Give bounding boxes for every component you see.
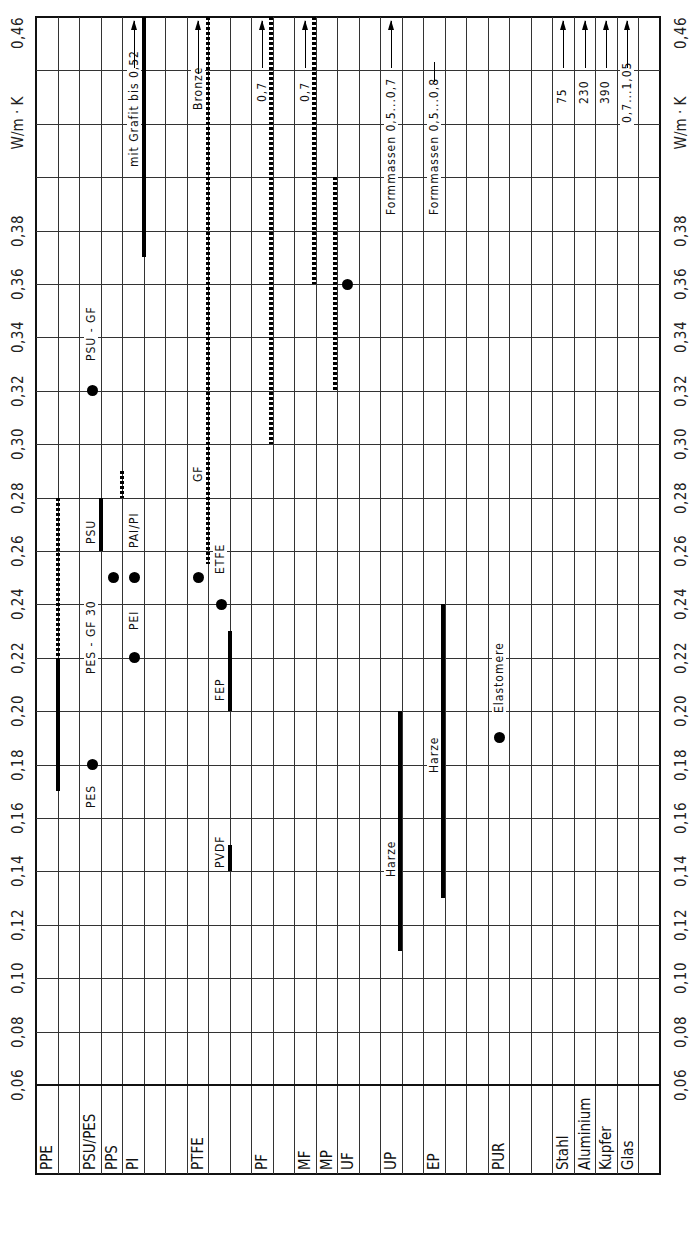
grid-column-line (531, 17, 532, 1174)
y-tick-label-right: 0,24 (672, 584, 690, 624)
y-tick-label-right: 0,12 (672, 905, 690, 945)
material-label: PPS (103, 1145, 121, 1170)
up-formmassen-arrow-icon (391, 21, 392, 68)
y-tick-label-right: 0,20 (672, 691, 690, 731)
y-tick-label-left: 0,14 (9, 851, 27, 891)
grid-column-line (79, 17, 80, 1174)
etfe-label: ETFE (213, 542, 227, 576)
grid-column-line (251, 17, 252, 1174)
fep-range-bar (228, 631, 232, 711)
ptfe-gf-range-bar (206, 17, 210, 564)
grid-column-line (509, 17, 510, 1174)
material-label: MF (296, 1151, 314, 1170)
grid-row-line (36, 391, 660, 392)
material-label: PI (124, 1158, 142, 1170)
grid-column-line (337, 17, 338, 1174)
baseline-0-06 (36, 1084, 660, 1086)
material-label: PSU/PES (81, 1114, 99, 1170)
y-tick-label-left: 0,32 (9, 371, 27, 411)
ptfe-point (193, 572, 204, 583)
grid-row-line (36, 444, 660, 445)
ep-harze-label: Harze (427, 735, 441, 775)
grid-column-line (165, 17, 166, 1174)
mf-0-7-label: 0,7 (298, 80, 312, 104)
ppe-gf-range-bar (56, 498, 60, 658)
grid-column-line (230, 17, 231, 1174)
grid-column-line (273, 17, 274, 1174)
grid-column-line (595, 17, 596, 1174)
y-tick-label-right: 0,26 (672, 531, 690, 571)
pps-point (108, 572, 119, 583)
y-tick-label-left: 0,18 (9, 745, 27, 785)
kupfer-arrow-icon (606, 21, 607, 68)
pes-point (87, 759, 98, 770)
psu-gf-point (87, 385, 98, 396)
gf-label: GF (191, 464, 205, 485)
pai-pi-point (129, 572, 140, 583)
material-label: PUR (490, 1143, 508, 1170)
pvdf-range-bar (228, 845, 232, 872)
y-tick-label-left: 0,34 (9, 317, 27, 357)
pf-range-bar (269, 17, 273, 444)
grid-row-line (36, 765, 660, 766)
pi-arrow-icon (134, 21, 135, 68)
grid-column-line (294, 17, 295, 1174)
y-tick-label-left: 0,12 (9, 905, 27, 945)
pes-gf30-label: PES - GF 30 (84, 599, 98, 677)
ppe-range-bar (56, 658, 60, 792)
aluminium-arrow-icon (585, 21, 586, 68)
material-label: PF (253, 1154, 271, 1170)
etfe-point (216, 599, 227, 610)
elastomere-point (494, 732, 505, 743)
bronze-arrow-icon (198, 21, 199, 74)
grid-column-line (122, 17, 123, 1174)
y-tick-label-right: 0,08 (672, 1012, 690, 1052)
grid-column-line (574, 17, 575, 1174)
y-tick-label-left: 0,08 (9, 1012, 27, 1052)
pei-label: PEI (127, 609, 141, 633)
psu-label: PSU (84, 517, 98, 545)
grid-column-line (423, 17, 424, 1174)
glas-value-label: 0,7...1,05 (620, 60, 634, 125)
aluminium-value-label: 230 (577, 79, 591, 107)
y-tick-label-right: 0,32 (672, 371, 690, 411)
up-harze-label: Harze (384, 839, 398, 879)
kupfer-value-label: 390 (598, 79, 612, 107)
y-tick-label-left: 0,16 (9, 798, 27, 838)
uf-point (342, 279, 353, 290)
y-tick-label-left: 0,26 (9, 531, 27, 571)
y-tick-label-right: 0,22 (672, 638, 690, 678)
material-label: Kupfer (597, 1126, 615, 1170)
thermal-conductivity-chart: 0,060,060,080,080,100,100,120,120,140,14… (0, 0, 699, 1235)
y-tick-label-left: 0,38 (9, 211, 27, 251)
up-formmassen-label: Formmassen 0,5...0,7 (384, 76, 398, 217)
grid-row-line (36, 818, 660, 819)
y-tick-label-left: 0,20 (9, 691, 27, 731)
grid-column-line (316, 17, 317, 1174)
grid-row-line (36, 871, 660, 872)
y-tick-label-top-right: 0,46 (672, 13, 690, 53)
grid-row-line (36, 925, 660, 926)
stahl-value-label: 75 (555, 87, 569, 107)
y-tick-label-left: 0,30 (9, 424, 27, 464)
material-label: EP (425, 1153, 443, 1170)
ep-formmassen-label: Formmassen 0,5...0,8 (427, 76, 441, 217)
grid-column-line (380, 17, 381, 1174)
stahl-arrow-icon (563, 21, 564, 68)
material-label: UP (382, 1152, 400, 1170)
material-label: MP (318, 1150, 336, 1170)
grid-row-line (36, 498, 660, 499)
grid-column-line (187, 17, 188, 1174)
grid-row-line (36, 978, 660, 979)
grid-row-line (36, 1032, 660, 1033)
y-tick-label-left: 0,28 (9, 478, 27, 518)
material-label: PPE (38, 1145, 56, 1170)
grid-column-line (638, 17, 639, 1174)
grid-column-line (466, 17, 467, 1174)
grid-column-line (617, 17, 618, 1174)
grid-row-line (36, 337, 660, 338)
material-label: Stahl (554, 1136, 572, 1170)
pps-range-bar (120, 471, 124, 498)
y-tick-label-right: 0,18 (672, 745, 690, 785)
y-tick-label-left: 0,24 (9, 584, 27, 624)
